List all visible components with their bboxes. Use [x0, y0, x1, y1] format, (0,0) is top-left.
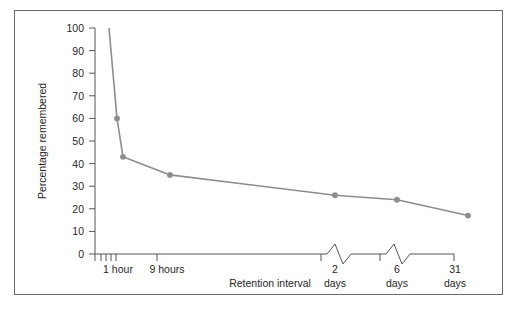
x-tick-label-2-days-line2: days — [324, 277, 346, 289]
y-tick-label-100: 100 — [66, 22, 84, 34]
y-axis-title: Percentage remembered — [36, 83, 48, 199]
series-line-percentage-remembered — [109, 28, 468, 216]
data-series-group — [109, 28, 471, 218]
x-axis-line — [95, 244, 454, 264]
y-tick-label-50: 50 — [72, 135, 84, 147]
y-tick-label-70: 70 — [72, 90, 84, 102]
x-tick-label-9-hours: 9 hours — [149, 263, 184, 275]
data-point-20-minutes — [114, 116, 120, 122]
y-tick-label-0: 0 — [78, 248, 84, 260]
series-markers — [114, 116, 471, 219]
y-tick-label-30: 30 — [72, 180, 84, 192]
y-tick-label-90: 90 — [72, 45, 84, 57]
data-point-9-hours — [167, 172, 173, 178]
y-tick-label-80: 80 — [72, 67, 84, 79]
figure-frame: 100 90 80 70 60 50 40 30 20 10 0 Percent… — [14, 10, 503, 295]
x-tick-label-6-days-line2: days — [386, 277, 408, 289]
y-axis-ticks — [89, 28, 95, 254]
x-tick-label-2-days-line1: 2 — [332, 263, 338, 275]
x-tick-label-31-days-line1: 31 — [449, 263, 461, 275]
y-tick-label-10: 10 — [72, 225, 84, 237]
data-point-31-days — [465, 213, 471, 219]
y-axis-tick-labels: 100 90 80 70 60 50 40 30 20 10 0 — [66, 22, 84, 260]
y-tick-label-20: 20 — [72, 203, 84, 215]
y-tick-label-60: 60 — [72, 112, 84, 124]
y-tick-label-40: 40 — [72, 158, 84, 170]
data-point-6-days — [394, 197, 400, 203]
x-tick-label-31-days-line2: days — [444, 277, 466, 289]
data-point-1-hour — [120, 154, 126, 160]
x-tick-label-6-days-line1: 6 — [394, 263, 400, 275]
x-axis-title: Retention interval — [229, 277, 311, 289]
x-tick-label-1-hour: 1 hour — [103, 263, 133, 275]
data-point-2-days — [332, 192, 338, 198]
forgetting-curve-chart: 100 90 80 70 60 50 40 30 20 10 0 Percent… — [15, 11, 502, 294]
